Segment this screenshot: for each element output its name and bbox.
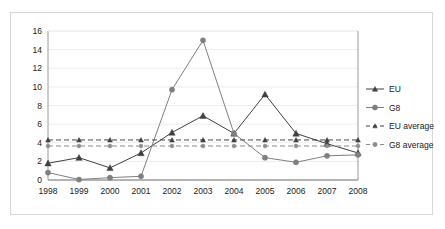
data-point-marker bbox=[355, 152, 360, 157]
y-axis-tick-labels: 0246810121416 bbox=[33, 26, 43, 185]
data-point-marker bbox=[232, 144, 236, 148]
data-point-marker bbox=[108, 144, 112, 148]
x-tick-label: 2001 bbox=[132, 186, 151, 196]
data-point-marker bbox=[372, 105, 377, 110]
data-point-marker bbox=[294, 144, 298, 148]
legend-item-g8[interactable]: G8 bbox=[366, 103, 401, 113]
series-eu-average bbox=[46, 138, 361, 142]
y-tick-label: 2 bbox=[37, 156, 42, 166]
y-tick-label: 10 bbox=[33, 82, 43, 92]
chart-legend: EUG8EU averageG8 average bbox=[366, 84, 434, 150]
legend-item-eu-average[interactable]: EU average bbox=[366, 121, 434, 131]
data-point-marker bbox=[373, 142, 377, 146]
x-tick-label: 2007 bbox=[318, 186, 337, 196]
x-tick-label: 1998 bbox=[39, 186, 58, 196]
series-line bbox=[48, 40, 358, 179]
y-tick-label: 16 bbox=[33, 26, 43, 36]
data-point-marker bbox=[263, 144, 267, 148]
data-point-marker bbox=[76, 177, 81, 182]
data-point-marker bbox=[293, 160, 298, 165]
chart-figure: 0246810121416 19981999200020012002200320… bbox=[0, 0, 445, 229]
data-point-marker bbox=[45, 170, 50, 175]
data-point-marker bbox=[139, 144, 143, 148]
data-point-marker bbox=[324, 153, 329, 158]
gridlines bbox=[48, 31, 358, 180]
data-point-marker bbox=[169, 87, 174, 92]
x-tick-label: 2008 bbox=[349, 186, 368, 196]
x-tick-label: 2002 bbox=[163, 186, 182, 196]
data-point-marker bbox=[231, 131, 236, 136]
series-g8 bbox=[45, 38, 360, 182]
data-point-marker bbox=[262, 91, 268, 97]
data-point-marker bbox=[325, 144, 329, 148]
data-point-marker bbox=[46, 144, 50, 148]
y-tick-label: 14 bbox=[33, 45, 43, 55]
data-point-marker bbox=[138, 174, 143, 179]
x-tick-label: 2005 bbox=[256, 186, 275, 196]
x-tick-label: 2000 bbox=[101, 186, 120, 196]
data-point-marker bbox=[200, 113, 206, 119]
legend-label: EU bbox=[389, 84, 401, 94]
y-tick-label: 8 bbox=[37, 101, 42, 111]
data-point-marker bbox=[356, 144, 360, 148]
x-tick-label: 1999 bbox=[70, 186, 89, 196]
y-tick-label: 6 bbox=[37, 119, 42, 129]
data-point-marker bbox=[201, 144, 205, 148]
data-point-marker bbox=[77, 144, 81, 148]
data-point-marker bbox=[262, 155, 267, 160]
legend-label: G8 average bbox=[389, 140, 434, 150]
data-point-marker bbox=[200, 38, 205, 43]
legend-label: EU average bbox=[389, 121, 434, 131]
y-tick-label: 0 bbox=[37, 175, 42, 185]
x-tick-label: 2006 bbox=[287, 186, 306, 196]
x-axis-tick-labels: 1998199920002001200220032004200520062007… bbox=[39, 186, 368, 196]
y-tick-label: 4 bbox=[37, 138, 42, 148]
data-point-marker bbox=[138, 150, 144, 156]
data-point-marker bbox=[170, 144, 174, 148]
legend-item-eu[interactable]: EU bbox=[366, 84, 401, 94]
x-tick-label: 2003 bbox=[194, 186, 213, 196]
x-tick-label: 2004 bbox=[225, 186, 244, 196]
chart-canvas: 0246810121416 19981999200020012002200320… bbox=[0, 0, 445, 229]
data-point-marker bbox=[107, 175, 112, 180]
data-point-marker bbox=[76, 154, 82, 160]
legend-label: G8 bbox=[389, 103, 401, 113]
legend-item-g8-average[interactable]: G8 average bbox=[366, 140, 434, 150]
data-point-marker bbox=[169, 129, 175, 135]
series-g8-average bbox=[46, 144, 360, 148]
data-series-layer bbox=[45, 38, 361, 182]
y-tick-label: 12 bbox=[33, 63, 43, 73]
